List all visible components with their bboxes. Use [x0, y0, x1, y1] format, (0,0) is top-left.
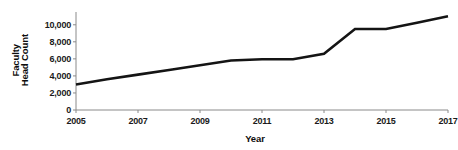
y-tick-label: 0 [31, 105, 71, 115]
y-tick-label: 4,000 [31, 71, 71, 81]
x-tick-label: 2015 [376, 116, 395, 126]
x-tick-label: 2017 [438, 116, 457, 126]
x-tick-label: 2005 [66, 116, 85, 126]
x-tick-label: 2011 [253, 116, 272, 126]
y-axis-title-line-2: Head Count [20, 34, 30, 86]
x-tick-label: 2013 [314, 116, 333, 126]
data-line-series-faculty-head-count [76, 16, 448, 84]
y-tick-label: 2,000 [31, 88, 71, 98]
x-axis-title: Year [245, 133, 265, 144]
y-tick-label: 8,000 [31, 37, 71, 47]
y-tick-label: 6,000 [31, 54, 71, 64]
x-tick-label: 2009 [190, 116, 209, 126]
x-tick-label: 2007 [128, 116, 147, 126]
y-tick-label: 10,000 [31, 20, 71, 30]
